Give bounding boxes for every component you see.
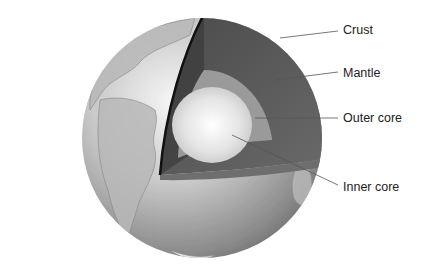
earth-cutaway-illustration: [0, 0, 439, 272]
inner-core: [172, 87, 252, 163]
crust-leader-line: [280, 31, 338, 38]
label-mantle: Mantle: [343, 66, 381, 80]
label-crust: Crust: [343, 23, 373, 37]
label-outer-core: Outer core: [343, 111, 402, 125]
label-inner-core: Inner core: [343, 180, 399, 194]
